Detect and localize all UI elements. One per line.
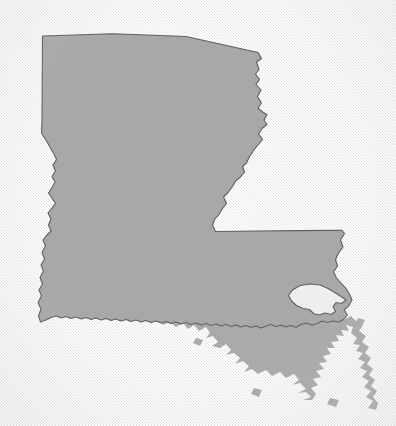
louisiana-map-svg [0,0,396,426]
barrier-island-fragment-3 [251,388,262,397]
map-figure [0,0,396,426]
louisiana-state-outline [38,34,352,328]
southern-coastal-marshes [150,316,378,410]
barrier-island-fragment-4 [327,398,339,407]
barrier-island-fragment-5 [193,338,203,346]
